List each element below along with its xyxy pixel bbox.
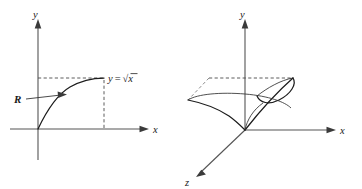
equation-radicand: x bbox=[127, 73, 133, 84]
x-axis-2d bbox=[10, 126, 149, 133]
rim-ellipse-rear bbox=[257, 78, 293, 96]
x-axis-label-2d: x bbox=[152, 124, 158, 135]
y-axis-3d bbox=[242, 19, 249, 130]
equation-lhs: y bbox=[107, 73, 113, 84]
y-axis-2d bbox=[35, 19, 42, 160]
figure-panel: y x R y=√x bbox=[0, 0, 362, 189]
z-axis-label-3d: z bbox=[184, 177, 189, 188]
region-label-R: R bbox=[13, 93, 21, 105]
z-axis-3d bbox=[196, 130, 245, 177]
x-axis-3d bbox=[245, 127, 336, 134]
dashed-left-edge-3d bbox=[188, 78, 209, 100]
surface-left-cusp-upper bbox=[188, 100, 245, 130]
curve-equation-label: y=√x bbox=[107, 73, 138, 84]
region-pointer-arrow bbox=[26, 91, 67, 99]
figure-2d-region: y x R y=√x bbox=[0, 0, 181, 189]
y-axis-label-2d: y bbox=[32, 9, 38, 20]
svg-text:y=√x: y=√x bbox=[107, 73, 133, 84]
sqrt-curve bbox=[38, 78, 104, 129]
figure-3d-solid: y x z bbox=[181, 0, 362, 189]
equation-equals: = bbox=[115, 73, 121, 84]
x-axis-label-3d: x bbox=[339, 125, 345, 136]
y-axis-label-3d: y bbox=[239, 9, 245, 20]
